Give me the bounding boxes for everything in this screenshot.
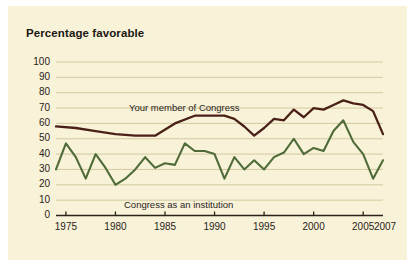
x-axis-tick-label: 1975	[46, 221, 86, 232]
y-axis-tick-label: 60	[24, 117, 50, 128]
x-axis-tick-label: 1985	[145, 221, 185, 232]
series-label-congress-institution: Congress as an institution	[124, 199, 233, 210]
series-line-congress-institution	[56, 120, 383, 184]
y-axis-tick-label: 90	[24, 71, 50, 82]
y-axis-tick-label: 0	[24, 209, 50, 220]
y-axis-tick-label: 50	[24, 132, 50, 143]
y-axis-tick-label: 70	[24, 102, 50, 113]
x-axis-end-label: 2007	[367, 221, 403, 232]
x-axis-tick-label: 2000	[294, 221, 334, 232]
chart-figure: Percentage favorable 1009080706050403020…	[8, 6, 407, 260]
y-axis-tick-label: 20	[24, 178, 50, 189]
y-axis-tick-label: 30	[24, 163, 50, 174]
x-axis-tick-label: 1995	[244, 221, 284, 232]
y-axis-tick-label: 100	[24, 56, 50, 67]
y-axis-tick-label: 80	[24, 86, 50, 97]
series-label-your-member: Your member of Congress	[129, 102, 240, 113]
x-axis-tick-label: 1980	[95, 221, 135, 232]
y-axis-tick-label: 40	[24, 148, 50, 159]
x-axis-tick-label: 1990	[195, 221, 235, 232]
y-axis-tick-label: 10	[24, 194, 50, 205]
